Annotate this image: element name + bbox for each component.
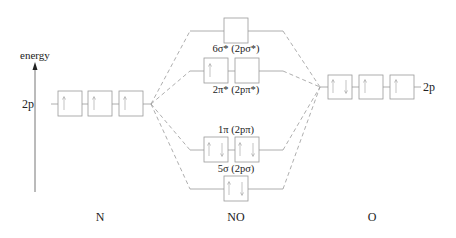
- no-2pi-star-electrons: [209, 64, 212, 78]
- o-2p-label: 2p: [423, 81, 435, 93]
- no-1pi-level: [190, 137, 283, 162]
- no-6sigma-star-level: [190, 18, 283, 43]
- no-5sigma-electrons: [228, 182, 244, 196]
- n-electrons: [63, 97, 127, 111]
- no-5sigma-level: [190, 176, 283, 201]
- energy-axis: [33, 62, 38, 192]
- mo-label-1pi: 1π (2pπ): [218, 125, 254, 136]
- molecule-label-no: NO: [227, 211, 244, 223]
- o-2p-level: [320, 75, 421, 99]
- n-2p-label: 2p: [22, 98, 34, 110]
- atom-label-n: N: [96, 211, 105, 223]
- n-2p-level: [51, 91, 151, 116]
- mo-label-5sigma: 5σ (2pσ): [218, 164, 255, 175]
- no-2pi-star-level: [190, 58, 283, 83]
- mo-label-6sigma-star: 6σ* (2pσ*): [212, 44, 259, 55]
- energy-arrow-icon: [33, 62, 38, 70]
- atom-label-o: O: [368, 211, 377, 223]
- mo-diagram: [0, 0, 456, 238]
- energy-axis-label: energy: [20, 50, 50, 61]
- no-1pi-electrons: [208, 143, 255, 157]
- mo-label-2pi-star: 2π* (2pπ*): [213, 85, 259, 96]
- o-electrons: [332, 80, 398, 94]
